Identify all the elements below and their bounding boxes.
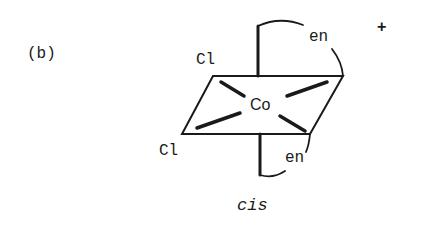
- ligand-cl-bottom: Cl: [159, 143, 178, 159]
- isomer-label-cis: cis: [237, 197, 268, 214]
- en-arc-top: [258, 21, 303, 26]
- metal-center-co: Co: [250, 97, 270, 113]
- bond-upper-right: [287, 82, 327, 96]
- bond-lower-right: [280, 116, 305, 131]
- en-arc-top-right: [332, 49, 343, 76]
- bond-lower-left: [197, 113, 240, 128]
- charge-plus: +: [377, 19, 386, 35]
- complex-structure-drawing: [0, 0, 422, 226]
- en-arc-bottom: [260, 171, 285, 176]
- en-arc-bottom-right: [306, 134, 310, 152]
- ligand-en-bottom: en: [285, 150, 304, 166]
- panel-label: (b): [27, 46, 56, 62]
- bond-upper-left: [221, 82, 244, 96]
- ligand-cl-top: Cl: [196, 52, 215, 68]
- octahedral-complex-diagram: (b) Cl Cl Co en en + cis: [0, 0, 422, 226]
- ligand-en-top: en: [309, 29, 328, 45]
